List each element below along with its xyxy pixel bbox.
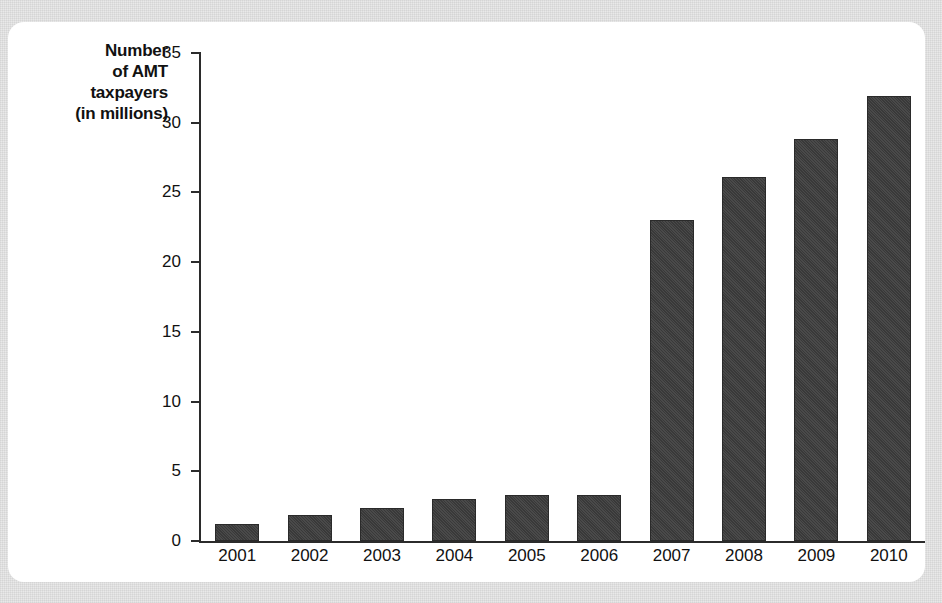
figure-card: Number of AMT taxpayers (in millions) 05… bbox=[8, 22, 925, 582]
y-axis-tick-label: 35 bbox=[135, 43, 181, 63]
x-axis-tick-label: 2007 bbox=[635, 546, 707, 566]
y-axis-tick bbox=[191, 261, 201, 263]
x-axis-tick-label: 2010 bbox=[853, 546, 925, 566]
y-axis-tick bbox=[191, 401, 201, 403]
bar-chart: Number of AMT taxpayers (in millions) 05… bbox=[8, 22, 925, 582]
y-axis-tick bbox=[191, 52, 201, 54]
bar bbox=[505, 495, 549, 541]
y-axis-tick-label: 5 bbox=[135, 461, 181, 481]
x-axis-tick-label: 2005 bbox=[491, 546, 563, 566]
y-axis-tick-label: 15 bbox=[135, 322, 181, 342]
bar bbox=[650, 220, 694, 541]
y-axis-tick bbox=[191, 470, 201, 472]
y-axis-tick bbox=[191, 191, 201, 193]
y-axis-tick-label: 30 bbox=[135, 113, 181, 133]
x-axis-tick-label: 2006 bbox=[563, 546, 635, 566]
plot-area: 05101520253035 2001200220032004200520062… bbox=[191, 42, 925, 562]
figure-page: Number of AMT taxpayers (in millions) 05… bbox=[0, 0, 942, 603]
x-axis-tick-label: 2009 bbox=[780, 546, 852, 566]
x-axis-tick-label: 2002 bbox=[273, 546, 345, 566]
bar bbox=[360, 508, 404, 541]
y-axis-tick-label: 25 bbox=[135, 182, 181, 202]
y-axis-tick bbox=[191, 540, 201, 542]
bar bbox=[794, 139, 838, 541]
y-axis-tick-labels: 05101520253035 bbox=[135, 42, 181, 562]
bar bbox=[432, 499, 476, 541]
x-axis-tick-label: 2001 bbox=[201, 546, 273, 566]
bar-series bbox=[201, 42, 925, 542]
bar bbox=[215, 524, 259, 541]
x-axis-tick-label: 2004 bbox=[418, 546, 490, 566]
y-axis-tick-label: 10 bbox=[135, 392, 181, 412]
bar bbox=[722, 177, 766, 541]
y-axis-tick-label: 20 bbox=[135, 252, 181, 272]
bar bbox=[577, 495, 621, 541]
y-axis-tick bbox=[191, 122, 201, 124]
x-axis-tick-labels: 2001200220032004200520062007200820092010 bbox=[201, 546, 925, 576]
bar bbox=[288, 515, 332, 541]
y-axis-tick-label: 0 bbox=[135, 531, 181, 551]
bar bbox=[867, 96, 911, 541]
x-axis-tick-label: 2003 bbox=[346, 546, 418, 566]
y-axis-tick bbox=[191, 331, 201, 333]
x-axis-tick-label: 2008 bbox=[708, 546, 780, 566]
